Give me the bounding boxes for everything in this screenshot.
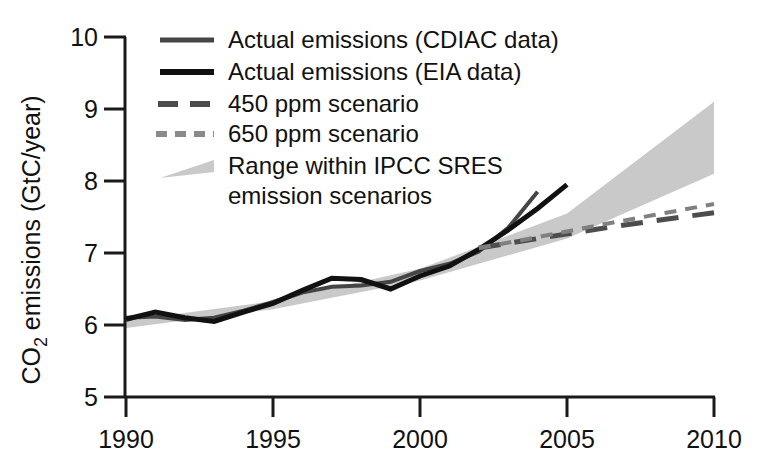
x-tick-label: 1995	[245, 425, 301, 453]
sres-range-band	[126, 102, 714, 328]
co2-emissions-line-chart: 5678910 19901995200020052010 CO2 emissio…	[0, 0, 772, 470]
y-tick-label: 8	[84, 167, 98, 195]
y-axis-title-post: emissions (GtC/year)	[17, 95, 45, 337]
x-tick-label: 2005	[539, 425, 595, 453]
svg-text:CO2 emissions (GtC/year): CO2 emissions (GtC/year)	[17, 95, 51, 384]
y-tick-label: 7	[84, 239, 98, 267]
axes	[125, 37, 715, 397]
y-tick-label: 9	[84, 95, 98, 123]
chart-container: 5678910 19901995200020052010 CO2 emissio…	[0, 0, 772, 470]
legend-swatch-sres-wedge	[160, 160, 214, 178]
x-tick-label: 2010	[686, 425, 742, 453]
x-tick-label: 2000	[392, 425, 448, 453]
legend-label-450ppm: 450 ppm scenario	[228, 90, 419, 117]
y-axis-title-pre: CO	[17, 347, 45, 385]
y-axis-ticks: 5678910	[70, 23, 126, 411]
legend-label-eia: Actual emissions (EIA data)	[228, 58, 521, 85]
legend-label-cdiac: Actual emissions (CDIAC data)	[228, 26, 559, 53]
y-tick-label: 6	[84, 311, 98, 339]
y-axis-title: CO2 emissions (GtC/year)	[17, 95, 51, 384]
legend-label-sres-line1: Range within IPCC SRES	[228, 152, 503, 179]
x-axis-ticks: 19901995200020052010	[98, 397, 742, 453]
legend-label-sres-line2: emission scenarios	[228, 182, 432, 209]
y-axis-title-sub: 2	[31, 337, 51, 347]
chart-legend: Actual emissions (CDIAC data) Actual emi…	[156, 26, 559, 209]
x-tick-label: 1990	[98, 425, 154, 453]
legend-label-650ppm: 650 ppm scenario	[228, 120, 419, 147]
y-tick-label: 10	[70, 23, 98, 51]
y-tick-label: 5	[84, 383, 98, 411]
